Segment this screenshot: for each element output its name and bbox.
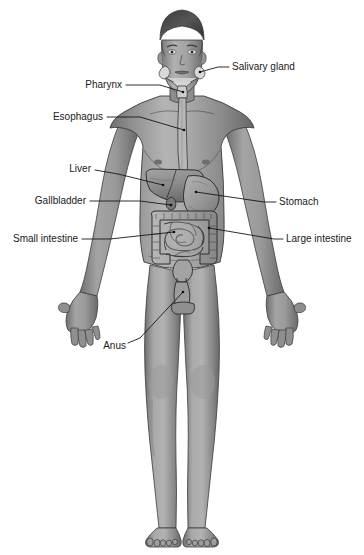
anchor-salivary-gland [199,71,202,74]
gallbladder-organ [166,197,176,210]
left-eye [171,51,174,54]
right-eye [191,51,194,54]
label-liver: Liver [69,163,91,174]
anchor-liver [162,184,165,187]
esophagus-organ [178,98,188,176]
label-large-intestine: Large intestine [286,233,352,244]
anchor-esophagus [183,129,186,132]
label-stomach: Stomach [279,196,318,207]
anchor-small-intestine [173,231,176,234]
anchor-gallbladder [170,204,173,207]
anchor-large-intestine [208,227,211,230]
anchor-pharynx [182,91,185,94]
label-salivary-gland: Salivary gland [232,61,295,72]
label-pharynx: Pharynx [85,79,122,90]
digestive-system-diagram: Salivary gland Pharynx Esophagus Liver G… [0,0,364,555]
anatomy-illustration: Salivary gland Pharynx Esophagus Liver G… [0,0,364,555]
anchor-anus [182,291,185,294]
label-anus: Anus [103,340,126,351]
label-gallbladder: Gallbladder [35,195,87,206]
left-nipple [154,159,162,164]
label-esophagus: Esophagus [53,111,103,122]
right-nipple [202,159,210,164]
label-small-intestine: Small intestine [13,233,78,244]
anchor-stomach [195,191,198,194]
